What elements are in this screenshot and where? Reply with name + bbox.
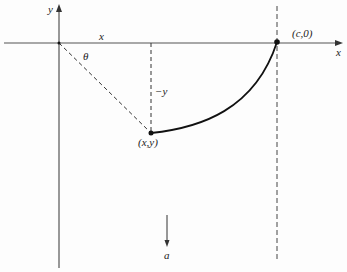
acceleration-arrowhead-icon xyxy=(165,240,170,247)
diagram-canvas: y x x θ −y (x,y) (c,0) a xyxy=(0,0,347,272)
point-xy-label: (x,y) xyxy=(138,137,158,148)
theta-label: θ xyxy=(83,51,88,62)
acceleration-label: a xyxy=(164,250,170,261)
hypotenuse-dashed xyxy=(59,43,151,133)
curve xyxy=(151,42,277,133)
y-axis-label: y xyxy=(48,4,53,15)
x-segment-label: x xyxy=(99,31,104,42)
diagram-svg xyxy=(0,0,347,272)
minus-y-label: −y xyxy=(155,86,167,97)
point-origin xyxy=(58,42,61,45)
x-axis-label: x xyxy=(336,47,341,58)
point-c0-label: (c,0) xyxy=(292,28,312,39)
point-c0 xyxy=(274,39,280,45)
point-xy xyxy=(149,131,154,136)
y-axis-arrow-icon xyxy=(56,4,62,12)
